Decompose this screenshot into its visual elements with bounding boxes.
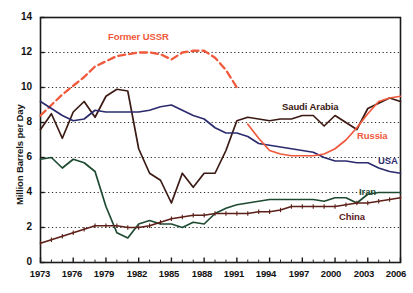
series-label-saudi-arabia: Saudi Arabia (282, 101, 339, 112)
series-label-china: China (339, 211, 365, 222)
series-line-former-ussr (41, 51, 237, 116)
series-label-russia: Russia (357, 130, 388, 141)
series-label-usa: USA (378, 155, 398, 166)
series-label-former-ussr: Former USSR (108, 31, 169, 42)
plot-canvas (0, 0, 413, 293)
series-label-iran: Iran (359, 186, 376, 197)
series-line-saudi-arabia (41, 89, 401, 203)
oil-production-line-chart: Million Barrels per Day 14 12 10 8 6 4 2… (0, 0, 413, 293)
